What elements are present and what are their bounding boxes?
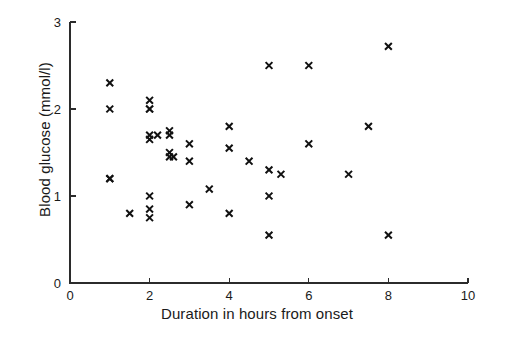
data-point-marker <box>305 62 312 69</box>
y-tick-label: 2 <box>54 102 61 117</box>
data-point-marker <box>106 106 113 113</box>
x-tick-label: 8 <box>385 288 392 300</box>
data-point-marker <box>266 193 273 200</box>
y-tick-label: 1 <box>54 189 61 204</box>
page-artifact <box>0 330 514 342</box>
data-point-marker <box>266 62 273 69</box>
x-axis-title: Duration in hours from onset <box>0 305 514 322</box>
data-point-marker <box>385 43 392 50</box>
data-point-marker <box>266 232 273 239</box>
axis-lines <box>70 22 468 283</box>
data-point-marker <box>226 210 233 217</box>
x-tick-label: 0 <box>66 288 73 300</box>
data-point-marker <box>226 145 233 152</box>
data-point-marker <box>166 132 173 139</box>
data-point-marker <box>345 171 352 178</box>
data-point-marker <box>146 136 153 143</box>
data-point-marker <box>266 167 273 174</box>
data-point-marker <box>146 193 153 200</box>
data-point-marker <box>154 132 161 139</box>
data-point-marker <box>146 97 153 104</box>
data-point-group <box>106 43 391 239</box>
x-tick-label: 10 <box>461 288 475 300</box>
data-point-marker <box>305 140 312 147</box>
data-point-marker <box>226 123 233 130</box>
data-point-marker <box>170 153 177 160</box>
data-point-marker <box>206 186 213 193</box>
plot-area: 02468100123 <box>0 0 514 300</box>
x-tick-label: 4 <box>226 288 233 300</box>
data-point-marker <box>146 206 153 213</box>
data-point-marker <box>246 158 253 165</box>
data-point-marker <box>106 80 113 87</box>
data-point-marker <box>146 214 153 221</box>
data-point-marker <box>186 140 193 147</box>
x-tick-label: 6 <box>305 288 312 300</box>
data-point-marker <box>106 175 113 182</box>
data-point-marker <box>365 123 372 130</box>
plot-canvas: 02468100123 <box>0 0 514 300</box>
y-tick-label: 3 <box>54 15 61 30</box>
x-tick-label: 2 <box>146 288 153 300</box>
data-point-marker <box>126 210 133 217</box>
data-point-marker <box>186 158 193 165</box>
y-tick-label: 0 <box>54 276 61 291</box>
data-point-marker <box>385 232 392 239</box>
scatter-plot-figure: Blood glucose (mmol/l) 02468100123 Durat… <box>0 0 514 342</box>
data-point-marker <box>146 106 153 113</box>
data-point-marker <box>278 171 285 178</box>
data-point-marker <box>186 201 193 208</box>
